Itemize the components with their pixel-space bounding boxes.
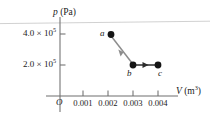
- y-tick-label-2e5-exponent: 5: [53, 57, 56, 64]
- data-point-a-label: a: [100, 29, 105, 38]
- scan-artifact-line: [0, 21, 210, 23]
- y-tick-label-2e5: 2.0 × 105: [3, 60, 56, 69]
- y-tick-label-4e5-exponent: 5: [53, 26, 56, 33]
- data-point-c-label: c: [158, 69, 162, 78]
- segment-a-to-b-arrowhead: [118, 50, 123, 57]
- x-axis-title: V (m3): [176, 87, 201, 97]
- y-tick-label-4e5: 4.0 × 105: [3, 29, 56, 38]
- segment-b-to-c: [133, 62, 158, 68]
- y-tick-label-2e5-base: 10: [44, 59, 53, 69]
- pv-diagram-figure: p (Pa) 4.0 × 105 2.0 × 105 O 0.001 0.002…: [0, 0, 210, 119]
- y-axis-title: p (Pa): [53, 8, 76, 18]
- segment-b-to-c-arrowhead: [143, 62, 149, 68]
- segment-a-to-b-line: [112, 37, 133, 64]
- x-axis-title-unit: (m: [184, 86, 195, 96]
- y-axis-title-unit: (Pa): [60, 7, 76, 17]
- y-tick-label-4e5-base: 10: [44, 28, 53, 38]
- data-point-b-label: b: [127, 69, 132, 78]
- y-axis-ticks: [60, 34, 66, 65]
- x-axis-title-unit-close: ): [198, 86, 201, 96]
- x-tick-label-0.004: 0.004: [142, 99, 174, 108]
- origin-label: O: [56, 98, 63, 107]
- y-tick-label-2e5-times: ×: [37, 59, 42, 69]
- x-axis-ticks: [83, 91, 158, 97]
- y-tick-label-4e5-mantissa: 4.0: [23, 28, 34, 38]
- y-tick-label-4e5-times: ×: [37, 28, 42, 38]
- data-point-a-marker: [108, 31, 115, 38]
- y-tick-label-2e5-mantissa: 2.0: [23, 59, 34, 69]
- segment-a-to-b: [112, 37, 133, 64]
